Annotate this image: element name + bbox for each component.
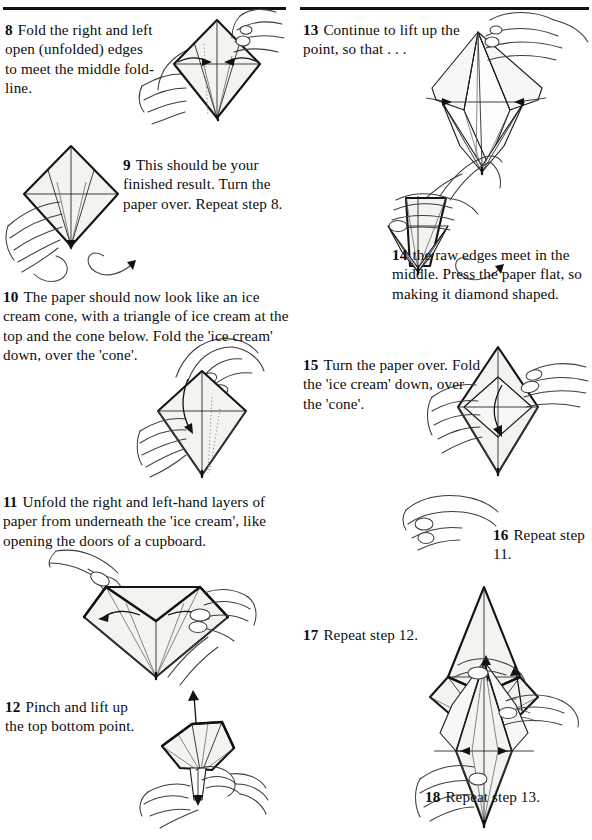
step-text-14: 14the raw edges meet in the middle. Pres…	[392, 245, 590, 303]
step-number-18: 18	[425, 788, 440, 805]
step-body-13: Continue to lift up the point, so that .…	[303, 21, 460, 57]
figure-step-12	[138, 688, 328, 838]
step-text-9: 9This should be your finished result. Tu…	[123, 155, 293, 213]
header-rule-right	[300, 7, 589, 10]
step-number-13: 13	[303, 21, 318, 38]
step-text-12: 12Pinch and lift up the top bottom point…	[5, 697, 135, 736]
step-body-10: The paper should now look like an ice cr…	[3, 288, 289, 363]
figure-step-11	[48, 545, 258, 690]
step-body-14: the raw edges meet in the middle. Press …	[392, 246, 582, 302]
step-number-8: 8	[5, 21, 13, 38]
step-text-11: 11Unfold the right and left-hand layers …	[3, 492, 295, 550]
step-number-17: 17	[303, 626, 318, 643]
figure-step-8	[142, 8, 292, 143]
step-text-13: 13Continue to lift up the point, so that…	[303, 20, 493, 59]
step-text-17: 17Repeat step 12.	[303, 625, 503, 644]
step-body-18: Repeat step 13.	[445, 788, 540, 805]
step-text-18: 18Repeat step 13.	[425, 787, 591, 806]
step-number-9: 9	[123, 156, 131, 173]
step-text-16: 16Repeat step 11.	[493, 525, 589, 564]
step-number-14: 14	[392, 246, 407, 263]
step-text-8: 8Fold the right and left open (unfolded)…	[5, 20, 155, 98]
step-body-9: This should be your finished result. Tur…	[123, 156, 282, 212]
step-body-8: Fold the right and left open (unfolded) …	[5, 21, 154, 96]
step-number-10: 10	[3, 288, 18, 305]
step-body-15: Turn the paper over. Fold the 'ice cream…	[303, 356, 480, 412]
step-text-15: 15Turn the paper over. Fold the 'ice cre…	[303, 355, 483, 413]
step-number-12: 12	[5, 698, 20, 715]
step-body-12: Pinch and lift up the top bottom point.	[5, 698, 135, 734]
figure-step-16	[404, 494, 500, 556]
step-body-11: Unfold the right and left-hand layers of…	[3, 493, 266, 549]
origami-instruction-page: 8Fold the right and left open (unfolded)…	[0, 0, 592, 840]
step-body-17: Repeat step 12.	[323, 626, 418, 643]
step-number-15: 15	[303, 356, 318, 373]
step-number-11: 11	[3, 493, 18, 510]
step-number-16: 16	[493, 526, 508, 543]
step-text-10: 10The paper should now look like an ice …	[3, 287, 295, 365]
figure-step-18	[420, 655, 592, 840]
